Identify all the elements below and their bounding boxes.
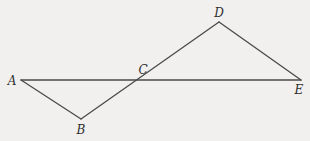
diagram-lines xyxy=(0,0,310,141)
point-label-e: E xyxy=(295,84,304,96)
point-label-d: D xyxy=(214,7,224,19)
geometry-diagram: A B C D E xyxy=(0,0,310,141)
point-label-b: B xyxy=(77,124,86,136)
segment-bd xyxy=(81,22,219,119)
point-label-a: A xyxy=(8,75,17,87)
point-label-c: C xyxy=(138,64,147,76)
segment-ab xyxy=(21,80,81,119)
segment-de xyxy=(219,22,301,80)
